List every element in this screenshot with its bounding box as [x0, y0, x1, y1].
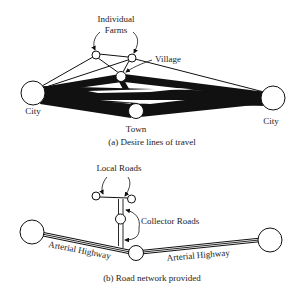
- label-collector-roads: Collector Roads: [141, 216, 200, 226]
- city-right-node-b: [258, 228, 282, 252]
- town-node-b: [129, 246, 144, 261]
- desire-lines-diagram: Individual Farms Village City Town City …: [21, 14, 285, 147]
- city-left-node: [21, 81, 45, 105]
- city-right-node: [261, 86, 285, 110]
- local-road: [100, 197, 128, 198]
- town-node: [129, 104, 144, 119]
- label-city-left: City: [25, 106, 41, 116]
- caption-a: (a) Desire lines of travel: [108, 137, 196, 147]
- label-village: Village: [155, 54, 181, 64]
- farm-node-b-2: [128, 195, 136, 203]
- village-node-b: [116, 214, 126, 224]
- label-local-roads: Local Roads: [96, 163, 142, 173]
- pointer-arrows-b: [102, 177, 139, 240]
- label-farms: Farms: [105, 25, 128, 35]
- label-city-right: City: [263, 116, 279, 126]
- label-town: Town: [126, 124, 147, 134]
- city-left-node-b: [20, 220, 44, 244]
- diagram-canvas: Individual Farms Village City Town City …: [0, 0, 299, 288]
- label-individual: Individual: [98, 14, 135, 24]
- thick-desire-lines: [40, 74, 267, 118]
- farm-node-b-1: [92, 192, 100, 200]
- farm-node-1: [92, 51, 100, 59]
- road-network-diagram: Local Roads Collector Roads Arterial Hig…: [20, 163, 282, 283]
- caption-b: (b) Road network provided: [103, 273, 201, 283]
- pointer-arrows-a: [94, 32, 152, 72]
- village-node: [116, 72, 126, 82]
- farm-node-2: [128, 54, 136, 62]
